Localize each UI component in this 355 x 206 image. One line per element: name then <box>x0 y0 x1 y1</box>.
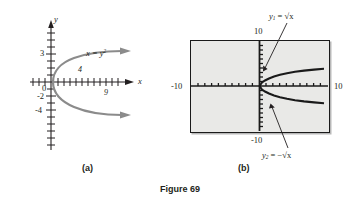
y-axis-arrowhead <box>48 20 54 28</box>
panel-b-tag: (b) <box>238 163 250 173</box>
panel-a-svg <box>0 0 175 175</box>
parabola-upper-arrowhead <box>120 47 131 54</box>
panel-a-ytick-label-neg2: -2 <box>37 91 44 101</box>
annotation-y1-subscript: 1 <box>273 15 276 21</box>
annotation-y2-label: y2 = −√x <box>262 150 291 160</box>
graphing-calculator-screen <box>190 40 330 133</box>
parabola-lower-branch <box>53 82 122 115</box>
window-label-xmin: -10 <box>171 81 182 91</box>
figure-69: y x 3 0 -2 -4 4 9 x = y2 <box>0 0 355 206</box>
panel-a-x-axis-label: x <box>138 76 142 86</box>
panel-a-tag: (a) <box>82 163 93 173</box>
panel-a-handdrawn-graph: y x 3 0 -2 -4 4 9 x = y2 <box>0 0 175 175</box>
curve-equation-main: x = y <box>86 48 104 58</box>
panel-a-ytick-label-neg4: -4 <box>35 105 42 115</box>
panel-a-point-label-4: 4 <box>78 65 82 74</box>
figure-caption: Figure 69 <box>160 184 200 194</box>
panel-a-y-axis-label: y <box>54 14 58 24</box>
annotation-y1-label: y1 = √x <box>269 11 293 21</box>
panel-a-point-label-9: 9 <box>104 88 108 97</box>
calculator-screen-svg <box>191 41 328 131</box>
window-label-xmax: 10 <box>334 81 343 91</box>
window-label-ymin: -10 <box>251 135 262 145</box>
panel-a-curve-equation-label: x = y2 <box>86 48 106 58</box>
parabola-lower-arrowhead <box>120 111 131 118</box>
window-label-ymax: 10 <box>254 26 263 36</box>
annotation-y2-subscript: 2 <box>266 154 269 160</box>
annotation-y1-expression: = √x <box>278 11 294 21</box>
curve-equation-exponent: 2 <box>104 48 107 54</box>
x-axis-arrowhead <box>125 79 134 85</box>
annotation-y2-expression: = −√x <box>271 150 292 160</box>
panel-a-ytick-label-3: 3 <box>40 48 44 58</box>
